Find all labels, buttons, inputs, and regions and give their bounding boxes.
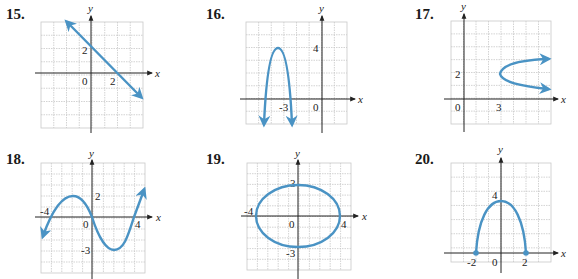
sideways-parabola-curve <box>500 59 548 89</box>
graph-18: x y -4 0 4 2 -3 <box>35 147 161 279</box>
x-axis-label: x <box>357 93 363 105</box>
grid <box>41 22 143 128</box>
x-axis-label: x <box>154 67 160 79</box>
y-axis-label: y <box>318 2 324 14</box>
graph-15: x y 0 2 2 <box>35 2 160 133</box>
graph-20: x y -2 0 2 4 <box>444 143 566 273</box>
closed-endpoint-left <box>473 250 479 256</box>
y-axis-label: y <box>497 143 503 155</box>
tick-label: -3 <box>286 247 296 259</box>
tick-label: 0 <box>313 101 319 113</box>
x-axis-label: x <box>155 211 161 223</box>
y-axis-label: y <box>88 147 94 159</box>
tick-label: -3 <box>279 101 289 113</box>
y-axis-label: y <box>87 2 93 14</box>
tick-label: 3 <box>496 101 502 113</box>
tick-label: 0 <box>289 218 295 230</box>
tick-label: 2 <box>95 190 101 202</box>
graph-16: x y -3 0 4 <box>240 2 363 133</box>
tick-label: 0 <box>83 218 89 230</box>
closed-endpoint-right <box>523 250 529 256</box>
tick-label: 0 <box>455 101 461 113</box>
y-axis-label: y <box>294 147 300 159</box>
tick-label: 4 <box>341 218 347 230</box>
tick-label: 0 <box>492 256 498 268</box>
tick-label: 4 <box>492 189 498 201</box>
tick-label: 0 <box>82 75 88 87</box>
x-axis-label: x <box>361 210 367 222</box>
graph-19: x y -4 0 4 3 -3 <box>241 147 367 279</box>
tick-label: -4 <box>244 205 254 217</box>
tick-label: 4 <box>313 42 319 54</box>
x-axis-label: x <box>560 93 566 105</box>
graphs-canvas: x y 0 2 2 x y -3 0 4 x y 0 3 2 x y -4 <box>0 0 578 279</box>
tick-label: -2 <box>467 256 476 268</box>
y-axis-label: y <box>460 0 466 12</box>
tick-label: 2 <box>82 44 88 56</box>
tick-label: 2 <box>522 256 528 268</box>
graph-17: x y 0 3 2 <box>444 0 566 132</box>
cubic-curve <box>43 190 144 250</box>
tick-label: 2 <box>110 75 116 87</box>
tick-label: 3 <box>290 177 296 189</box>
tick-label: -4 <box>40 205 50 217</box>
tick-label: -3 <box>81 244 91 256</box>
tick-label: 4 <box>135 218 141 230</box>
x-axis-label: x <box>560 247 566 259</box>
tick-label: 2 <box>455 68 461 80</box>
grid <box>246 22 347 124</box>
